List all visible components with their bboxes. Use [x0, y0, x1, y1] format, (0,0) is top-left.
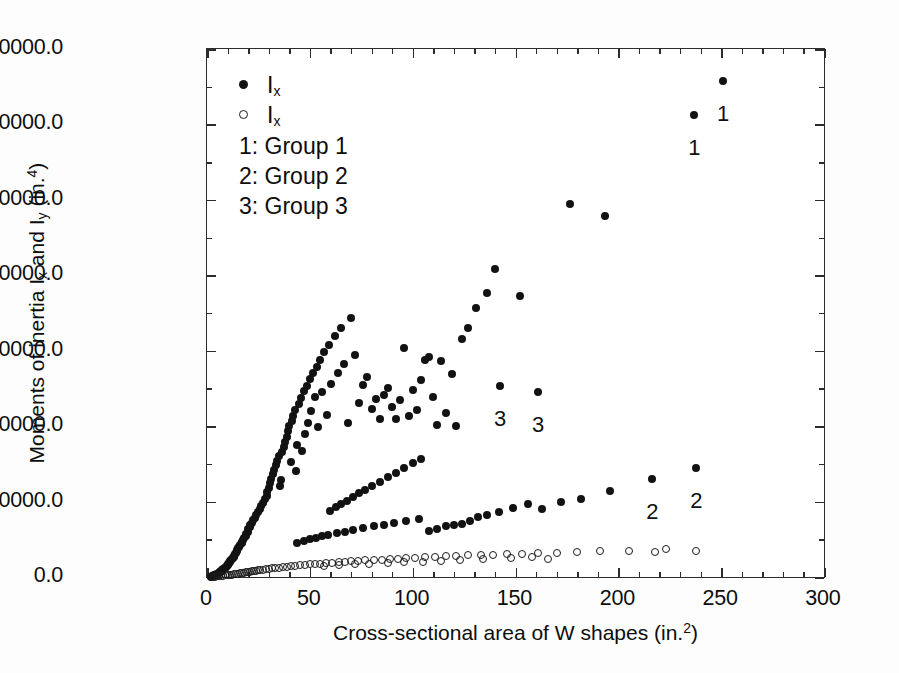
data-point-ix [474, 513, 482, 521]
y-tick-minor [207, 238, 212, 239]
legend-group-2: 2: Group 2 [239, 161, 348, 191]
y-tick-minor [207, 539, 212, 540]
data-point-iy [351, 560, 359, 568]
data-point-ix [417, 376, 425, 384]
x-tick-major-top [824, 49, 826, 58]
data-point-ix [388, 403, 396, 411]
data-point-ix [433, 421, 441, 429]
data-point-iy [553, 549, 561, 557]
y-tick-minor [207, 464, 212, 465]
data-point-ix [372, 395, 380, 403]
legend-group-1: 1: Group 1 [239, 131, 348, 161]
data-point-ix [307, 407, 315, 415]
data-point-iy [596, 547, 604, 555]
chart-legend: Ix Ix 1: Group 1 2: Group 2 3: Group 3 [239, 71, 348, 221]
x-tick-minor-top [330, 49, 331, 54]
x-tick-minor [577, 572, 578, 577]
data-point-ix [325, 341, 333, 349]
x-tick-label: 300 [783, 588, 863, 610]
data-point-iy [437, 557, 445, 565]
data-point-ix [425, 353, 433, 361]
x-tick-minor [536, 572, 537, 577]
y-tick-major-right [815, 351, 824, 353]
data-point-ix [298, 447, 306, 455]
x-tick-minor-top [803, 49, 804, 54]
y-tick-major [207, 351, 216, 353]
data-point-iy [411, 554, 419, 562]
x-tick-minor-top [742, 49, 743, 54]
data-point-ix [392, 469, 400, 477]
y-tick-major [207, 200, 216, 202]
data-point-ix [392, 415, 400, 423]
data-point-iy [464, 551, 472, 559]
y-tick-minor [207, 388, 212, 389]
x-tick-minor [639, 572, 640, 577]
y-tick-major [207, 275, 216, 277]
y-tick-label: 10000.0 [0, 490, 63, 512]
x-tick-major-top [310, 49, 312, 58]
x-axis-title: Cross-sectional area of W shapes (in.2) [206, 620, 825, 645]
x-tick-minor [783, 572, 784, 577]
data-point-ix [368, 405, 376, 413]
x-tick-minor-top [639, 49, 640, 54]
y-tick-minor [207, 162, 212, 163]
x-axis-title-close: ) [691, 621, 698, 644]
data-point-iy [528, 553, 536, 561]
x-tick-minor-top [783, 49, 784, 54]
y-tick-label: 30000.0 [0, 339, 63, 361]
x-tick-label: 0 [166, 588, 246, 610]
data-point-ix [368, 482, 376, 490]
x-tick-label: 250 [680, 588, 760, 610]
x-tick-major-top [618, 49, 620, 58]
data-point-iy [662, 545, 670, 553]
x-tick-minor-top [433, 49, 434, 54]
data-point-ix [292, 467, 300, 475]
open-circle-icon [239, 110, 248, 119]
y-tick-minor-right [819, 388, 824, 389]
x-tick-minor [289, 572, 290, 577]
data-point-ix [396, 396, 404, 404]
data-point-ix [359, 524, 367, 532]
data-point-ix [483, 289, 491, 297]
x-tick-minor-top [474, 49, 475, 54]
data-point-iy [456, 556, 464, 564]
data-point-ix [692, 464, 700, 472]
data-point-ix [376, 415, 384, 423]
data-point-iy [518, 550, 526, 558]
data-point-ix [417, 455, 425, 463]
data-point-ix [333, 529, 341, 537]
data-point-ix [601, 212, 609, 220]
y-tick-minor-right [819, 162, 824, 163]
data-point-ix [344, 419, 352, 427]
data-point-ix [429, 393, 437, 401]
data-point-ix [409, 386, 417, 394]
data-point-iy [625, 547, 633, 555]
group-label-1: 1 [688, 137, 700, 159]
data-point-iy [489, 551, 497, 559]
data-point-iy [573, 548, 581, 556]
x-tick-label: 100 [372, 588, 452, 610]
legend-group-3: 3: Group 3 [239, 191, 348, 221]
data-point-ix [355, 399, 363, 407]
data-point-ix [464, 324, 472, 332]
data-point-ix [277, 476, 285, 484]
data-point-ix [458, 335, 466, 343]
x-tick-label: 150 [475, 588, 555, 610]
data-point-ix [341, 528, 349, 536]
data-point-ix [380, 521, 388, 529]
x-tick-minor [433, 572, 434, 577]
x-tick-minor-top [577, 49, 578, 54]
x-tick-minor [474, 572, 475, 577]
x-tick-minor-top [372, 49, 373, 54]
data-point-ix [415, 515, 423, 523]
group-label-3: 3 [494, 408, 506, 430]
y-tick-minor [207, 313, 212, 314]
data-point-ix [433, 525, 441, 533]
data-point-ix [297, 394, 305, 402]
x-tick-minor-top [248, 49, 249, 54]
x-tick-minor-top [269, 49, 270, 54]
figure-canvas: Moments of inertia Ix and Iy (in.4) Cros… [0, 0, 899, 673]
y-tick-major-right [815, 577, 824, 579]
y-tick-label: 70000.0 [0, 37, 63, 59]
data-point-ix [303, 382, 311, 390]
